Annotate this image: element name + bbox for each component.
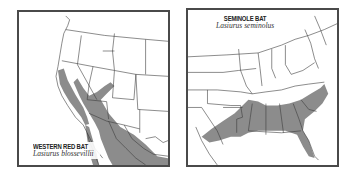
western-map-label: WESTERN RED BAT Lasiurus blossevillii [31,142,100,159]
western-red-bat-range-map: WESTERN RED BAT Lasiurus blossevillii [17,10,170,167]
eastern-map-label: SEMINOLE BAT Lasiurus seminolus [216,15,274,30]
eastern-map-svg [188,10,337,165]
western-scientific-name: Lasiurus blossevillii [33,150,98,158]
eastern-scientific-name: Lasiurus seminolus [216,22,274,30]
western-common-name: WESTERN RED BAT [33,143,88,150]
seminole-bat-range-map: SEMINOLE BAT Lasiurus seminolus [186,8,339,167]
eastern-state-borders [188,16,337,165]
eastern-common-name: SEMINOLE BAT [220,15,269,22]
seminole-bat-range [202,84,329,158]
